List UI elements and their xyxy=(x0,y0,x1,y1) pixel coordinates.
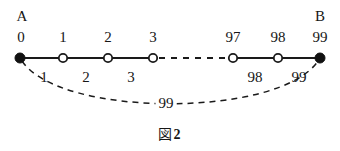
node-vertex-3 xyxy=(149,54,157,62)
vertex-label-0: 0 xyxy=(17,30,25,45)
node-endpoint-b xyxy=(315,53,325,63)
caption-symbol: 図 xyxy=(158,126,174,142)
node-endpoint-a xyxy=(15,53,25,63)
node-vertex-98 xyxy=(274,54,282,62)
edge-label-98: 98 xyxy=(248,70,263,85)
endpoint-label-a: A xyxy=(17,9,28,24)
arc-label-99: 99 xyxy=(156,96,177,111)
vertex-label-3: 3 xyxy=(149,30,157,45)
vertex-label-97: 97 xyxy=(226,30,241,45)
edge-label-3: 3 xyxy=(127,70,135,85)
node-vertex-97 xyxy=(229,54,237,62)
node-vertex-1 xyxy=(59,54,67,62)
caption-number: 2 xyxy=(174,127,183,142)
edge-label-1: 1 xyxy=(40,70,48,85)
node-vertex-2 xyxy=(104,54,112,62)
vertex-label-99: 99 xyxy=(313,30,328,45)
figure-container: A B 0 1 2 3 97 98 99 1 2 3 98 99 99 図2 xyxy=(0,0,340,151)
endpoint-label-b: B xyxy=(315,9,325,24)
figure-caption: 図2 xyxy=(158,123,183,143)
vertex-label-1: 1 xyxy=(59,30,67,45)
vertex-label-2: 2 xyxy=(104,30,112,45)
edge-label-2: 2 xyxy=(82,70,90,85)
edge-label-99: 99 xyxy=(292,70,307,85)
vertex-label-98: 98 xyxy=(271,30,286,45)
